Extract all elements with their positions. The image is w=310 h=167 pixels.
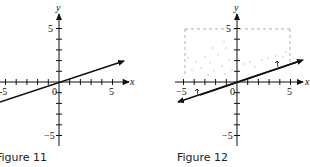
y-axis-label: y [55,2,61,13]
tick-label-origin: 0 [230,86,235,97]
x-axis-label: x [304,76,310,87]
figure-12-caption: Figure 12 [177,151,228,164]
tick-label-y-pos: 5 [226,23,231,34]
tick-label-x-neg: -5 [0,86,7,97]
y-axis-label: y [233,2,239,13]
graphs-canvas: y x 5 −5 -5 5 0 y x 5 −5 −5 5 0 [0,0,310,167]
tick-label-y-neg: −5 [44,130,55,141]
figure-11-caption: Figure 11 [0,151,47,164]
tick-label-x-pos: 5 [109,86,114,97]
tick-label-x-pos: 5 [287,86,292,97]
figure-12-graph [175,14,303,146]
tick-label-y-pos: 5 [48,23,53,34]
x-axis-label: x [129,76,135,87]
figure-11-graph [0,14,129,146]
tick-label-y-neg: −5 [222,130,233,141]
tick-label-origin: 0 [52,86,57,97]
tick-label-x-neg: −5 [176,86,187,97]
